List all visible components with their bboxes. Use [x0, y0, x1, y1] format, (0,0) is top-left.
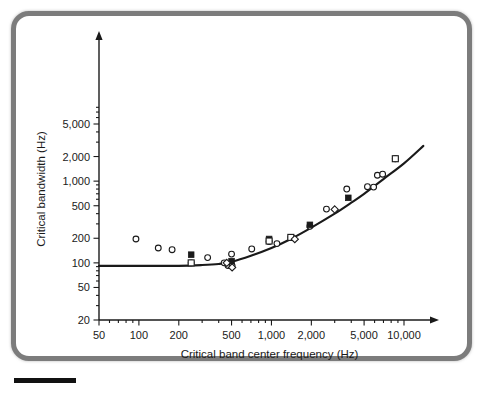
y-tick-label: 500 [72, 200, 90, 212]
y-tick-label: 200 [72, 232, 90, 244]
axes-layer [94, 31, 440, 326]
data-point-open-circle [371, 184, 377, 190]
data-point-open-circle [155, 245, 161, 251]
data-point-open-circle [205, 255, 211, 261]
x-tick-label: 50 [93, 329, 105, 341]
data-point-filled-square [188, 252, 194, 258]
data-point-open-circle [274, 241, 280, 247]
caption-rule [14, 378, 76, 383]
data-point-filled-square [307, 222, 313, 228]
data-point-open-circle [344, 186, 350, 192]
y-tick-label: 20 [78, 314, 90, 326]
x-axis-title: Critical band center frequency (Hz) [181, 348, 359, 360]
data-point-open-square [188, 260, 194, 266]
data-point-open-circle [229, 251, 235, 257]
x-tick-label: 1,000 [258, 329, 286, 341]
y-tick-label: 100 [72, 257, 90, 269]
data-point-open-circle [133, 236, 139, 242]
y-tick-label: 1,000 [62, 175, 90, 187]
data-point-open-circle [365, 184, 371, 190]
y-tick-label: 5,000 [62, 118, 90, 130]
chart-plot: 20501002005001,0002,0005,000501002005001… [0, 0, 495, 401]
y-tick-label: 2,000 [62, 151, 90, 163]
y-axis-title: Critical bandwidth (Hz) [35, 131, 47, 247]
data-point-open-square [392, 156, 398, 162]
data-point-filled-square [346, 195, 352, 201]
data-points-layer [133, 156, 398, 271]
x-tick-label: 100 [130, 329, 148, 341]
data-point-open-circle [249, 246, 255, 252]
x-tick-label: 500 [222, 329, 240, 341]
x-tick-label: 200 [170, 329, 188, 341]
axis-labels-layer: 20501002005001,0002,0005,000501002005001… [35, 118, 421, 360]
figure-root: 20501002005001,0002,0005,000501002005001… [0, 0, 495, 401]
data-point-open-circle [324, 206, 330, 212]
x-tick-label: 10,000 [387, 329, 421, 341]
fitted-curve [99, 146, 423, 266]
x-tick-label: 2,000 [298, 329, 326, 341]
data-point-open-circle [380, 171, 386, 177]
fitted-curve-layer [99, 146, 423, 266]
x-tick-label: 5,000 [350, 329, 378, 341]
data-point-open-square [266, 238, 272, 244]
data-point-open-circle [169, 247, 175, 253]
y-tick-label: 50 [78, 281, 90, 293]
